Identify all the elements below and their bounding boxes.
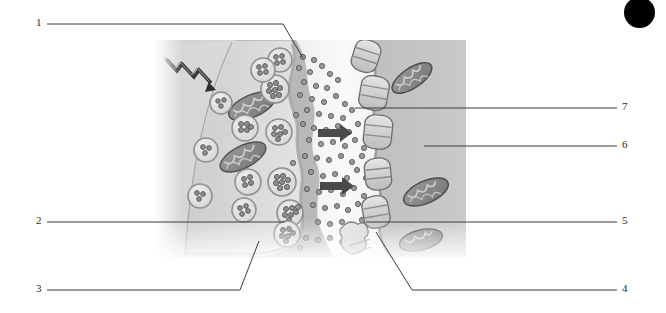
label-number-6[interactable]: 6	[622, 139, 628, 150]
label-number-5[interactable]: 5	[622, 215, 628, 226]
label-number-3[interactable]: 3	[36, 283, 42, 294]
label-number-2[interactable]: 2	[36, 215, 42, 226]
synapse-illustration	[0, 0, 666, 313]
label-number-1[interactable]: 1	[36, 17, 42, 28]
label-number-7[interactable]: 7	[622, 101, 628, 112]
label-number-4[interactable]: 4	[622, 283, 628, 294]
figure-canvas: 1 2 3 4 5 6 7	[0, 0, 666, 313]
